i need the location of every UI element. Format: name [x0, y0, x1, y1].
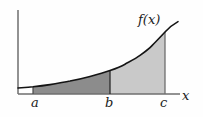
function-label: f(x) — [138, 13, 160, 26]
x-axis-label: x — [182, 89, 189, 102]
tick-label-b: b — [105, 96, 113, 109]
tick-label-c: c — [160, 96, 167, 109]
function-area-figure: f(x) a b c x — [0, 0, 203, 117]
tick-label-a: a — [31, 96, 39, 109]
